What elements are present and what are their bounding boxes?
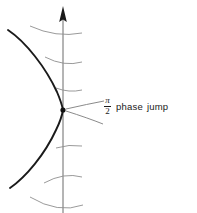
annotation-word-two: jump <box>147 101 168 112</box>
leader-line-lower <box>66 111 103 124</box>
annotation-word-one: phase <box>116 101 143 112</box>
tick-arc-1 <box>30 26 82 34</box>
phase-front-lower <box>10 110 63 188</box>
fraction-numerator: π <box>104 96 111 106</box>
phase-front-upper <box>8 30 63 110</box>
tick-arc-3 <box>56 88 82 91</box>
phase-jump-annotation: π 2 phasejump <box>104 96 168 116</box>
tick-arc-6 <box>30 197 83 208</box>
leader-line-upper <box>66 101 104 109</box>
fraction-denominator: 2 <box>104 107 111 117</box>
annotation-text: phasejump <box>116 101 168 112</box>
phase-jump-point <box>60 107 65 112</box>
figure-canvas: π 2 phasejump <box>0 0 197 213</box>
tick-arc-4 <box>56 145 82 148</box>
pi-over-two-fraction: π 2 <box>104 96 111 116</box>
